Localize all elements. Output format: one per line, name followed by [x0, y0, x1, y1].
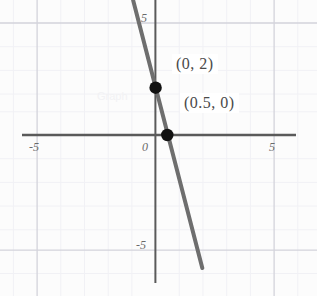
point-label-y-intercept: (0, 2) — [172, 54, 218, 74]
data-point-x-intercept — [161, 129, 173, 141]
horizontal-gridlines-minor — [0, 47, 317, 274]
x-tick-label-pos5: 5 — [269, 140, 275, 155]
y-tick-label-neg5: -5 — [136, 238, 146, 253]
x-tick-label-zero: 0 — [142, 140, 148, 155]
data-point-y-intercept — [149, 82, 161, 94]
x-tick-label-neg5: -5 — [29, 140, 39, 155]
y-tick-label-pos5: 5 — [141, 11, 147, 26]
watermark-text: Graph — [97, 90, 128, 102]
graph-canvas: Graph -5 0 5 5 -5 (0, 2) (0.5, 0) — [0, 0, 317, 296]
point-label-x-intercept: (0.5, 0) — [180, 93, 239, 113]
